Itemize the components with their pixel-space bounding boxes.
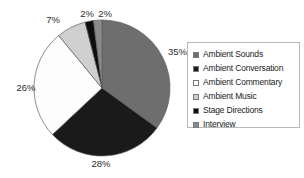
legend-item-interview[interactable]: Interview [193,118,299,131]
legend-swatch-icon [193,122,199,128]
data-label-interview: 2% [98,8,112,19]
data-label-ambient-sounds: 35% [168,46,188,57]
legend-swatch-icon [193,94,199,100]
legend-swatch-icon [193,66,199,72]
legend-item-label: Interview [203,118,235,131]
pie-chart-figure: 35% 28% 26% 7% 2% 2% Ambient SoundsAmbie… [0,0,304,178]
legend-swatch-icon [193,80,199,86]
pie-slice-group [34,20,170,156]
legend-item-ambient-music[interactable]: Ambient Music [193,90,299,103]
legend-item-label: Ambient Sounds [203,48,263,61]
data-label-ambient-commentary: 26% [16,82,36,93]
legend-item-ambient-sounds[interactable]: Ambient Sounds [193,48,299,61]
legend-item-stage-directions[interactable]: Stage Directions [193,104,299,117]
chart-legend: Ambient SoundsAmbient ConversationAmbien… [187,42,300,128]
data-label-ambient-music: 7% [46,14,60,25]
legend-item-label: Ambient Commentary [203,76,282,89]
legend-item-label: Ambient Conversation [203,62,283,75]
legend-swatch-icon [193,52,199,58]
legend-item-ambient-commentary[interactable]: Ambient Commentary [193,76,299,89]
legend-swatch-icon [193,108,199,114]
data-label-stage-directions: 2% [80,8,94,19]
data-label-ambient-conversation: 28% [91,158,111,169]
legend-item-ambient-conversation[interactable]: Ambient Conversation [193,62,299,75]
legend-item-label: Stage Directions [203,104,263,117]
legend-item-label: Ambient Music [203,90,257,103]
